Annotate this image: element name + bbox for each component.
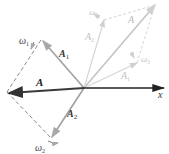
ghost-label-A1: A1 — [120, 70, 130, 82]
ghost-label-omega2: ω2 — [89, 7, 98, 18]
ghost-label-omega1: ω1 — [141, 54, 150, 65]
main-parallelogram — [7, 40, 84, 143]
omega2-arrow-icon — [48, 141, 58, 143]
ghost-omega1-arrow-icon — [131, 52, 134, 58]
ghost-label-A: A — [127, 14, 135, 25]
omega1-arrow-icon — [31, 42, 34, 49]
vector-A — [9, 88, 84, 93]
label-omega1: ω1 — [19, 35, 29, 47]
vector-diagram: x A A1 A2 ω1 ω2 A A2 A1 ω2 ω1 — [0, 0, 169, 154]
dashed-left-lower — [7, 92, 51, 138]
label-omega2: ω2 — [35, 142, 45, 154]
ghost-label-A2: A2 — [84, 31, 94, 43]
label-A: A — [35, 76, 43, 88]
x-axis-label: x — [157, 89, 163, 100]
label-A2: A2 — [66, 108, 78, 121]
